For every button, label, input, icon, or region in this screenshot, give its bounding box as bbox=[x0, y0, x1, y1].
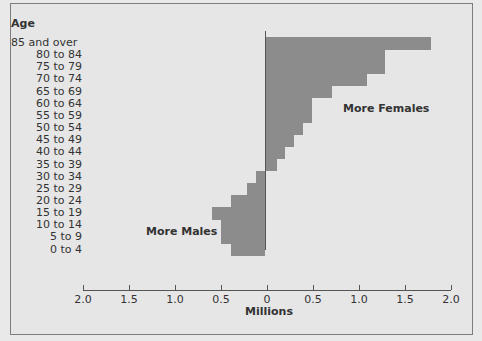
category-label: 75 to 79 bbox=[36, 60, 82, 73]
tick-mark bbox=[451, 285, 452, 290]
bar bbox=[266, 134, 295, 147]
category-label: 60 to 64 bbox=[36, 97, 82, 110]
category-label: 15 to 19 bbox=[36, 206, 82, 219]
tick-mark bbox=[129, 285, 130, 290]
tick-label: 1.5 bbox=[390, 293, 420, 306]
x-axis bbox=[83, 290, 451, 291]
x-axis-title: Millions bbox=[245, 305, 293, 318]
tick-mark bbox=[405, 285, 406, 290]
bar bbox=[212, 207, 265, 220]
bar bbox=[266, 37, 432, 50]
tick-label: 1.5 bbox=[114, 293, 144, 306]
category-label: 30 to 34 bbox=[36, 170, 82, 183]
category-label: 0 to 4 bbox=[50, 243, 82, 256]
bar bbox=[266, 86, 332, 99]
tick-label: 0.5 bbox=[298, 293, 328, 306]
category-label: 25 to 29 bbox=[36, 182, 82, 195]
bar bbox=[221, 219, 265, 232]
bar bbox=[231, 244, 266, 257]
category-label: 65 to 69 bbox=[36, 85, 82, 98]
category-label: 40 to 44 bbox=[36, 145, 82, 158]
tick-mark bbox=[175, 285, 176, 290]
category-label: 5 to 9 bbox=[50, 230, 82, 243]
tick-mark bbox=[313, 285, 314, 290]
tick-label: 1.0 bbox=[160, 293, 190, 306]
tick-mark bbox=[83, 285, 84, 290]
tick-label: 2.0 bbox=[68, 293, 98, 306]
bar bbox=[266, 159, 277, 172]
bar bbox=[266, 146, 285, 159]
category-label: 20 to 24 bbox=[36, 194, 82, 207]
tick-label: 1.0 bbox=[344, 293, 374, 306]
bar bbox=[247, 183, 265, 196]
bar bbox=[266, 110, 313, 123]
category-label: 55 to 59 bbox=[36, 109, 82, 122]
zero-line bbox=[265, 31, 266, 250]
category-label: 50 to 54 bbox=[36, 121, 82, 134]
bar bbox=[266, 73, 367, 86]
annotation-more-females: More Females bbox=[343, 102, 429, 115]
bar bbox=[221, 231, 265, 244]
bar bbox=[266, 49, 386, 62]
tick-label: 0.5 bbox=[206, 293, 236, 306]
tick-label: 2.0 bbox=[436, 293, 466, 306]
tick-mark bbox=[267, 285, 268, 290]
y-axis-title: Age bbox=[11, 17, 35, 30]
bar bbox=[266, 122, 304, 135]
bar bbox=[266, 98, 313, 111]
category-label: 35 to 39 bbox=[36, 158, 82, 171]
category-label: 10 to 14 bbox=[36, 218, 82, 231]
tick-mark bbox=[221, 285, 222, 290]
category-label: 70 to 74 bbox=[36, 72, 82, 85]
tick-mark bbox=[359, 285, 360, 290]
bar bbox=[231, 195, 266, 208]
bar bbox=[266, 61, 386, 74]
category-label: 85 and over bbox=[11, 36, 82, 49]
category-label: 45 to 49 bbox=[36, 133, 82, 146]
category-label: 80 to 84 bbox=[36, 48, 82, 61]
annotation-more-males: More Males bbox=[146, 225, 217, 238]
